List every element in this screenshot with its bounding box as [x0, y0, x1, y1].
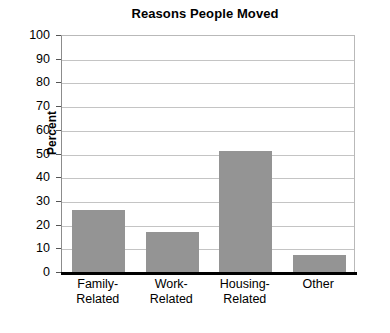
y-tick-label: 40 [10, 171, 50, 183]
chart-title: Reasons People Moved [55, 6, 355, 21]
bar [219, 151, 272, 272]
x-tick-label-line: Related [61, 292, 135, 307]
x-tick-label-line: Other [282, 277, 356, 292]
y-tick-label: 90 [10, 53, 50, 65]
y-tick-label: 80 [10, 76, 50, 88]
x-tick-label: Other [282, 277, 356, 292]
bar-chart-figure: Reasons People Moved Percent 10090807060… [0, 0, 390, 333]
x-axis-tick-group: Family-RelatedWork-RelatedHousing-Relate… [61, 277, 355, 327]
y-tick-label: 70 [10, 100, 50, 112]
x-tick-label: Family-Related [61, 277, 135, 307]
x-tick-label-line: Work- [135, 277, 209, 292]
x-tick-label-line: Related [208, 292, 282, 307]
y-tick-label: 0 [10, 266, 50, 278]
y-tick-label: 10 [10, 242, 50, 254]
bar [146, 232, 199, 272]
y-tick-label: 50 [10, 148, 50, 160]
y-tick-label: 20 [10, 219, 50, 231]
x-tick-label-line: Family- [61, 277, 135, 292]
y-tick-label: 30 [10, 195, 50, 207]
bar [72, 210, 125, 272]
plot-area [61, 35, 355, 272]
x-tick-label: Housing-Related [208, 277, 282, 307]
x-tick-label: Work-Related [135, 277, 209, 307]
x-axis-line [61, 272, 357, 275]
bars-layer [62, 36, 354, 272]
x-tick-label-line: Housing- [208, 277, 282, 292]
bar [293, 255, 346, 272]
y-tick-label: 60 [10, 124, 50, 136]
y-tick-label: 100 [10, 29, 50, 41]
x-tick-label-line: Related [135, 292, 209, 307]
